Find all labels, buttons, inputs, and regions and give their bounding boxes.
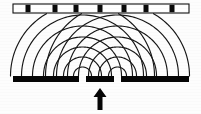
- fringe-maximum-mark: [98, 5, 103, 12]
- barrier-right: [121, 76, 189, 82]
- barrier-middle: [86, 76, 114, 82]
- barrier-left: [13, 76, 79, 82]
- slit-barrier: [13, 76, 189, 82]
- fringe-maximum-mark: [170, 5, 175, 12]
- fringe-maximum-mark: [122, 5, 127, 12]
- fringe-maximum-mark: [53, 5, 58, 12]
- fringe-maximum-mark: [144, 5, 149, 12]
- fringe-maximum-mark: [26, 5, 31, 12]
- interference-figure: [0, 0, 201, 114]
- fringe-maximum-mark: [74, 5, 79, 12]
- figure-canvas: [0, 0, 201, 114]
- detection-screen: [13, 4, 189, 13]
